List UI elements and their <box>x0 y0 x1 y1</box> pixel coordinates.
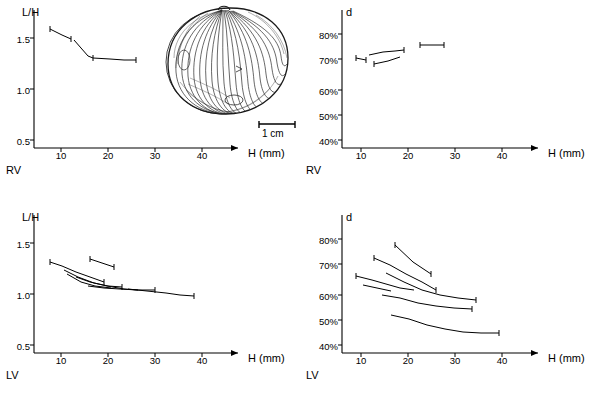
panel-rv-d: d H (mm) RV 40% 50% 60% 70% 80% 10 20 30… <box>300 0 601 185</box>
panel-lv-d: d H (mm) LV 40% 50% 60% 70% 80% 10 20 30… <box>300 205 601 397</box>
panel-lv-d-plot <box>300 205 560 375</box>
shell-illustration <box>160 2 295 127</box>
panel-lv-lh: L/H H (mm) LV 0.5 1.0 1.5 10 20 30 40 <box>0 205 300 397</box>
panel-rv-d-plot <box>300 0 560 170</box>
scale-bar-label: 1 cm <box>262 128 284 139</box>
panel-lv-lh-plot <box>0 205 260 375</box>
